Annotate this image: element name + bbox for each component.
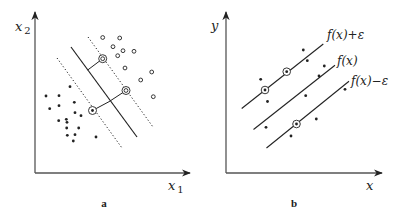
data-point (323, 65, 326, 68)
data-point (304, 94, 307, 97)
filled-class-point (58, 94, 61, 97)
filled-class-point (77, 127, 80, 130)
open-class-point (150, 70, 154, 74)
filled-class-point (95, 136, 98, 139)
filled-class-point (57, 119, 60, 122)
panel-b-line-labels: f(x)+εf(x)f(x)−ε (326, 28, 388, 88)
support-vector-point (264, 89, 267, 92)
panel-a-x-axis-label: x1 (168, 178, 184, 195)
support-vector-point (295, 123, 298, 126)
open-class-point (132, 49, 136, 53)
regression-line (254, 65, 336, 129)
open-class-point (101, 36, 105, 40)
panel-a-hyperplanes (57, 37, 153, 148)
lower-epsilon-line-label: f(x)−ε (350, 74, 388, 88)
open-class-point (121, 49, 125, 53)
svm-diagram: x2 x1 a y x b f(x)+εf(x)f(x)−ε (0, 0, 395, 215)
filled-class-point (65, 127, 68, 130)
filled-class-point (80, 114, 83, 117)
data-point (318, 75, 321, 78)
support-vector-open (101, 57, 105, 61)
data-point (265, 126, 268, 129)
filled-class-point (48, 107, 51, 110)
filled-class-point (58, 104, 61, 107)
data-point (266, 100, 269, 103)
open-class-point (118, 36, 122, 40)
data-point (306, 59, 309, 62)
panel-a-caption: a (101, 197, 107, 209)
filled-class-point (73, 101, 76, 104)
filled-class-point (66, 121, 69, 124)
support-vector-filled (91, 109, 94, 112)
panel-b-svm-regression: y x b f(x)+εf(x)f(x)−ε (210, 12, 388, 209)
upper-epsilon-line-label: f(x)+ε (326, 28, 364, 42)
data-point (302, 49, 305, 52)
filled-class-point (65, 118, 68, 121)
panel-a-data-points (45, 36, 156, 143)
data-point (315, 118, 318, 121)
data-point (290, 135, 293, 138)
support-vector-open (124, 89, 128, 93)
panel-b-caption: b (291, 197, 297, 209)
data-point (259, 78, 262, 81)
filled-class-point (72, 140, 75, 143)
data-point (344, 88, 347, 91)
panel-a-svm-classification: x2 x1 a (15, 12, 190, 209)
filled-class-point (69, 85, 72, 88)
panel-b-x-axis-label: x (366, 178, 374, 193)
open-class-point (139, 78, 143, 82)
open-class-point (123, 66, 127, 70)
regression-line-label: f(x) (336, 54, 358, 68)
support-vector-point (285, 70, 288, 73)
panel-b-epsilon-tube (242, 44, 349, 148)
panel-b-y-axis-label: y (210, 18, 219, 33)
filled-class-point (74, 111, 77, 114)
filled-class-point (66, 134, 69, 137)
lower-epsilon-line (267, 81, 350, 148)
filled-class-point (74, 133, 77, 136)
filled-class-point (45, 95, 48, 98)
upper-epsilon-line (242, 44, 324, 109)
panel-b-data-points (259, 49, 346, 138)
open-class-point (116, 54, 120, 58)
panel-a-y-axis-label: x2 (15, 19, 31, 36)
open-class-point (111, 45, 115, 49)
open-class-point (151, 95, 155, 99)
panel-a-axes (35, 12, 190, 173)
